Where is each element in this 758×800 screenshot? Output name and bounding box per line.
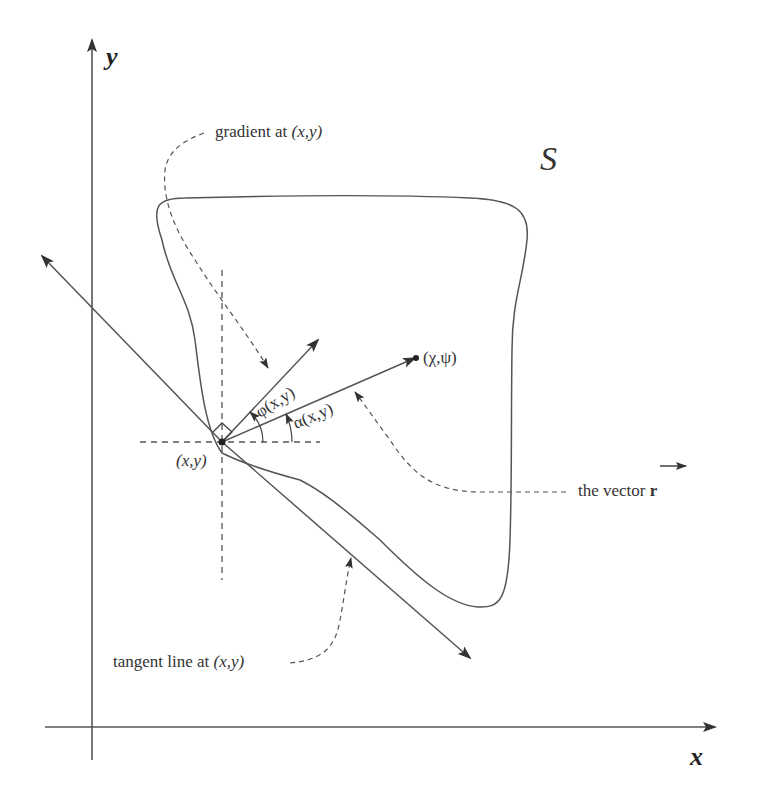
diagram-canvas: φ(x,y) α(x,y) (0, 0, 758, 800)
tangent-line (42, 256, 222, 442)
vector-r-annotation-text: the vector (578, 481, 650, 500)
angle-alpha-label: α(x,y) (290, 399, 336, 433)
vector-r-annotation: the vector r (578, 481, 657, 501)
target-point-label: (χ,ψ) (423, 348, 457, 368)
vector-r-leader (355, 392, 566, 492)
x-axis-label: x (690, 742, 703, 772)
vector-r-bold: r (650, 481, 658, 500)
gradient-annotation-var: (x,y) (291, 122, 322, 141)
point-xy-label: (x,y) (176, 451, 207, 471)
gradient-leader (165, 133, 268, 368)
point-xy (219, 439, 226, 446)
set-s-label: S (540, 140, 557, 178)
vector-r (222, 358, 415, 442)
tangent-leader (290, 558, 351, 663)
tangent-annotation: tangent line at (x,y) (113, 652, 244, 672)
tangent-annotation-text: tangent line at (113, 652, 214, 671)
tangent-line-lower (222, 442, 470, 658)
target-point (413, 355, 419, 361)
gradient-annotation: gradient at (x,y) (215, 122, 322, 142)
gradient-annotation-text: gradient at (215, 122, 291, 141)
tangent-annotation-var: (x,y) (214, 652, 245, 671)
y-axis-label: y (106, 42, 118, 72)
region-s-boundary (157, 196, 528, 607)
